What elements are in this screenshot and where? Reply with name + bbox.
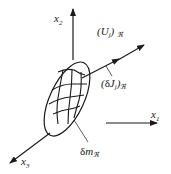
mass-element-diagram: x2 (Uj)ℜ (δJj)ℜ δmℜ x1 x3 <box>0 0 171 174</box>
x2-axis: x2 <box>53 9 73 60</box>
mass-element-leader <box>74 120 88 142</box>
momentum-flux-arrow <box>82 45 144 78</box>
momentum-flux-label: (δJj)ℜ <box>101 77 127 91</box>
velocity-label: (Uj)ℜ <box>97 25 124 39</box>
x3-axis: x3 <box>10 133 50 170</box>
mass-element-label: δmℜ <box>80 145 100 159</box>
x1-axis-label: x1 <box>150 108 159 123</box>
mass-element-surface <box>35 56 100 143</box>
x1-axis: x1 <box>106 108 159 123</box>
x3-axis-label: x3 <box>20 155 30 170</box>
x2-axis-label: x2 <box>53 12 63 27</box>
